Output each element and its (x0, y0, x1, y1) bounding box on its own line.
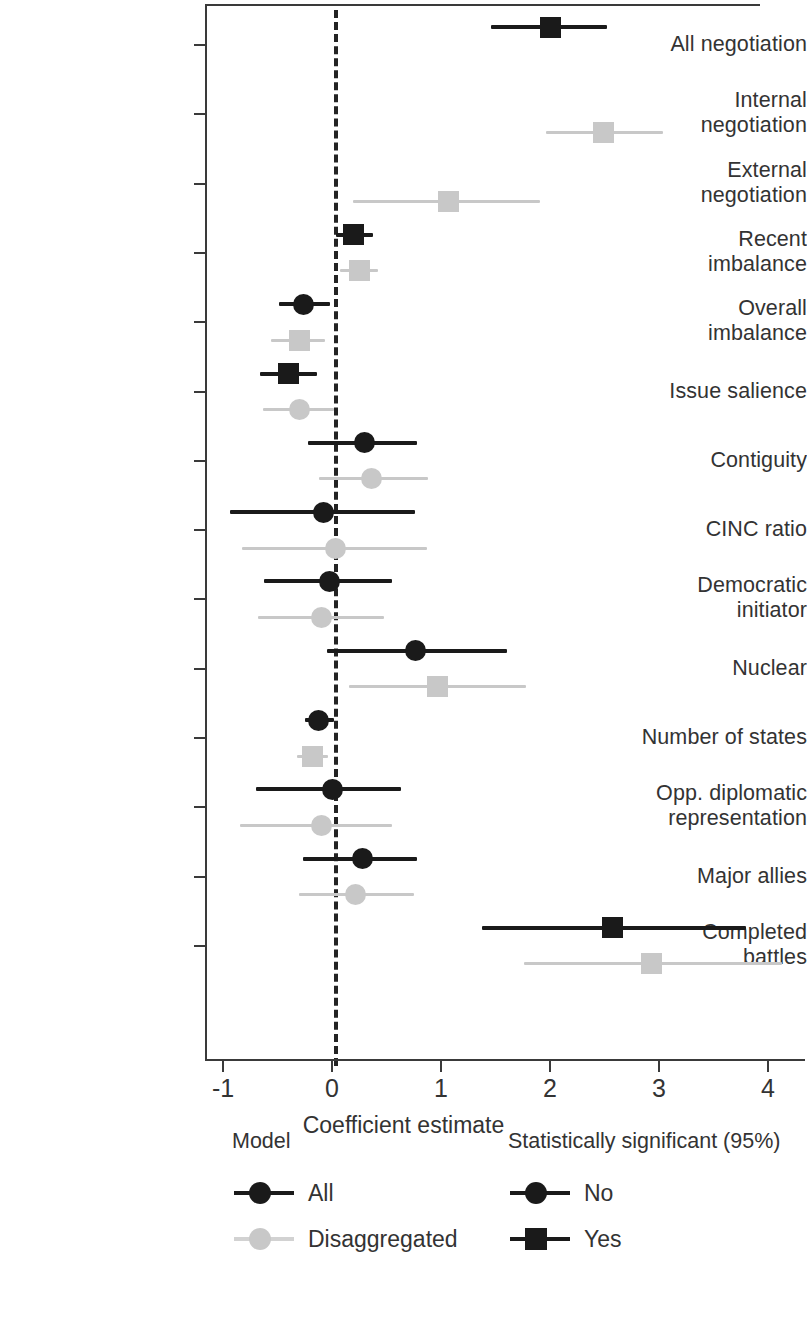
y-axis-tick (194, 876, 205, 878)
y-axis-label-democratic-initiator: Democraticinitiator (617, 573, 807, 623)
legend-model: Model All Disaggregated (232, 1128, 458, 1262)
x-axis-tick (767, 1061, 769, 1072)
legend-significance: Statistically significant (95%) No Yes (508, 1128, 780, 1262)
y-axis-label-external-negotiation: Externalnegotiation (617, 158, 807, 208)
estimate-marker-square (343, 224, 364, 245)
y-axis-tick (194, 668, 205, 670)
x-axis-tick-label: -1 (193, 1074, 253, 1103)
x-axis-line (205, 1059, 805, 1061)
y-axis-tick (194, 529, 205, 531)
legend-model-title: Model (232, 1128, 458, 1154)
y-axis-tick (194, 945, 205, 947)
x-axis-tick-label: 0 (302, 1074, 362, 1103)
x-axis-tick (549, 1061, 551, 1072)
legend-label-no: No (572, 1180, 613, 1207)
y-axis-tick (194, 183, 205, 185)
y-axis-label-major-allies: Major allies (617, 864, 807, 889)
y-axis-tick (194, 44, 205, 46)
x-axis-tick (658, 1061, 660, 1072)
y-axis-label-nuclear: Nuclear (617, 656, 807, 681)
x-axis-tick-label: 3 (629, 1074, 689, 1103)
legend-significance-title-line1: Statistically (508, 1129, 616, 1153)
estimate-marker-square (289, 330, 310, 351)
estimate-marker-square (593, 122, 614, 143)
estimate-marker-circle (308, 710, 329, 731)
y-axis-tick (194, 737, 205, 739)
estimate-marker-circle (311, 815, 332, 836)
y-axis-tick (194, 460, 205, 462)
x-axis-tick-label: 4 (738, 1074, 798, 1103)
estimate-marker-square (602, 917, 623, 938)
y-axis-label-all-negotiation: All negotiation (617, 32, 807, 57)
y-axis-tick (194, 391, 205, 393)
y-axis-label-issue-salience: Issue salience (617, 379, 807, 404)
x-axis-tick (222, 1061, 224, 1072)
legend-key-all-icon (232, 1176, 296, 1210)
estimate-marker-circle (361, 468, 382, 489)
estimate-marker-circle (289, 399, 310, 420)
estimate-marker-circle (293, 294, 314, 315)
estimate-marker-circle (322, 779, 343, 800)
legend-label-yes: Yes (572, 1226, 622, 1253)
estimate-marker-square (540, 17, 561, 38)
legend-key-no-icon (508, 1176, 572, 1210)
legend-significance-title: Statistically significant (95%) (508, 1128, 780, 1154)
y-axis-label-recent-imbalance: Recentimbalance (617, 227, 807, 277)
legend-key-yes-icon (508, 1222, 572, 1256)
y-axis-tick (194, 113, 205, 115)
legend-label-all: All (296, 1180, 334, 1207)
estimate-marker-square (438, 191, 459, 212)
legend-item-all[interactable]: All (232, 1170, 458, 1216)
legend-key-disaggregated-icon (232, 1222, 296, 1256)
legend-item-significant-yes[interactable]: Yes (508, 1216, 780, 1262)
y-axis-tick (194, 598, 205, 600)
y-axis-tick (194, 806, 205, 808)
estimate-marker-square (641, 953, 662, 974)
estimate-marker-circle (313, 502, 334, 523)
legend-item-disaggregated[interactable]: Disaggregated (232, 1216, 458, 1262)
legend-label-disaggregated: Disaggregated (296, 1226, 458, 1253)
estimate-marker-circle (325, 538, 346, 559)
x-axis-tick-label: 1 (411, 1074, 471, 1103)
x-axis-tick-label: 2 (520, 1074, 580, 1103)
y-axis-tick (194, 321, 205, 323)
estimate-marker-circle (352, 848, 373, 869)
estimate-marker-square (427, 676, 448, 697)
y-axis-label-number-of-states: Number of states (617, 725, 807, 750)
estimate-marker-square (302, 746, 323, 767)
estimate-marker-square (349, 260, 370, 281)
x-axis-tick (440, 1061, 442, 1072)
estimate-marker-circle (311, 607, 332, 628)
estimate-marker-square (278, 363, 299, 384)
legend-significance-title-line2: significant (95%) (622, 1129, 781, 1153)
x-axis-tick (331, 1061, 333, 1072)
y-axis-label-opp-diplomatic-representation: Opp. diplomaticrepresentation (617, 781, 807, 831)
y-axis-label-cinc-ratio: CINC ratio (617, 517, 807, 542)
y-axis-tick (194, 252, 205, 254)
y-axis-label-contiguity: Contiguity (617, 448, 807, 473)
legend-item-significant-no[interactable]: No (508, 1170, 780, 1216)
y-axis-label-overall-imbalance: Overallimbalance (617, 296, 807, 346)
coefficient-plot-figure: All negotiationInternalnegotiationExtern… (0, 0, 807, 1344)
